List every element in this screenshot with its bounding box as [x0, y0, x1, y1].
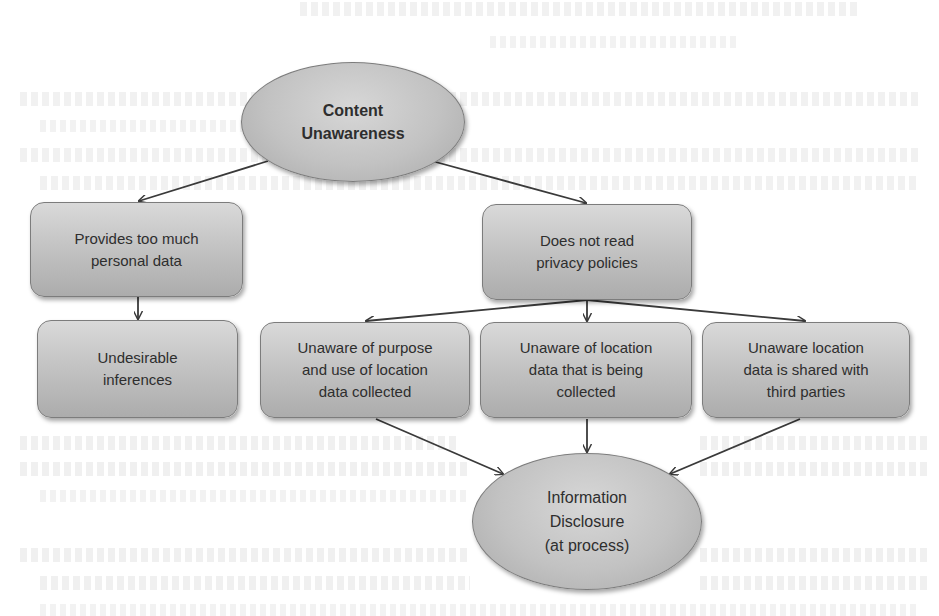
edge-doesnotread-to-shared: [587, 300, 805, 321]
node-information-disclosure: Information Disclosure (at process): [472, 453, 702, 590]
node-label: Unaware location data is shared with thi…: [743, 337, 868, 403]
node-label: Content Unawareness: [301, 99, 404, 145]
edge-content-to-doesnotread: [432, 161, 586, 203]
node-label: Does not read privacy policies: [536, 230, 638, 274]
node-label: Unaware of purpose and use of location d…: [297, 337, 432, 403]
node-provides-too-much-personal-data: Provides too much personal data: [30, 202, 243, 297]
node-unaware-of-location-collected: Unaware of location data that is being c…: [480, 322, 692, 418]
node-label: Undesirable inferences: [97, 347, 177, 391]
connector-layer: [0, 0, 939, 616]
edge-content-to-provides: [139, 161, 268, 201]
node-label: Unaware of location data that is being c…: [520, 337, 653, 403]
edge-purpose-to-disclosure: [376, 419, 503, 474]
node-label: Information Disclosure (at process): [545, 486, 629, 558]
node-does-not-read-privacy-policies: Does not read privacy policies: [482, 204, 692, 300]
node-label: Provides too much personal data: [74, 228, 198, 272]
edge-doesnotread-to-purpose: [366, 300, 587, 321]
node-content-unawareness: Content Unawareness: [241, 62, 465, 182]
edge-shared-to-disclosure: [670, 419, 800, 474]
node-undesirable-inferences: Undesirable inferences: [37, 320, 238, 418]
node-unaware-location-shared: Unaware location data is shared with thi…: [702, 322, 910, 418]
node-unaware-of-purpose: Unaware of purpose and use of location d…: [260, 322, 470, 418]
